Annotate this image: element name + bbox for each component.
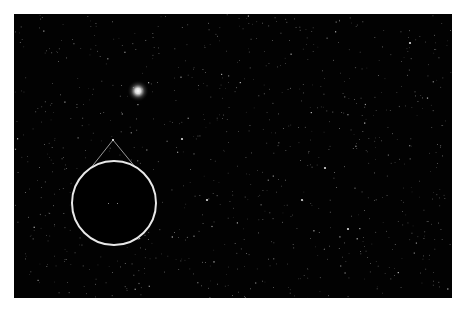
star-field-image [14, 14, 452, 298]
magnifier-inset [72, 139, 156, 245]
background-stars [15, 15, 451, 299]
star-field [14, 14, 452, 298]
bright-star [127, 80, 149, 102]
notable-stars [181, 42, 411, 230]
target-marker [112, 139, 114, 141]
